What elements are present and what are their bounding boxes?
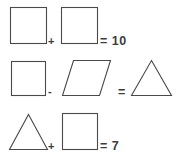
shape-equation-puzzle: + = 10 - = + = 7 [0,0,179,164]
puzzle-shapes-canvas [0,0,179,164]
shape-square-row2 [12,62,46,96]
shape-triangle-row2 [132,61,172,96]
result-row2: = [118,86,126,99]
shape-square-row3 [63,114,98,150]
shape-square-row1-left [11,8,47,44]
result-row1: = 10 [100,35,127,48]
result-row3: = 7 [100,140,119,153]
shape-triangle-row3 [10,115,48,150]
shape-parallelogram-row2 [63,61,111,96]
operator-row1: + [48,36,54,47]
shape-square-row1-right [62,8,98,44]
operator-row3: + [48,141,54,152]
operator-row2: - [48,86,52,97]
